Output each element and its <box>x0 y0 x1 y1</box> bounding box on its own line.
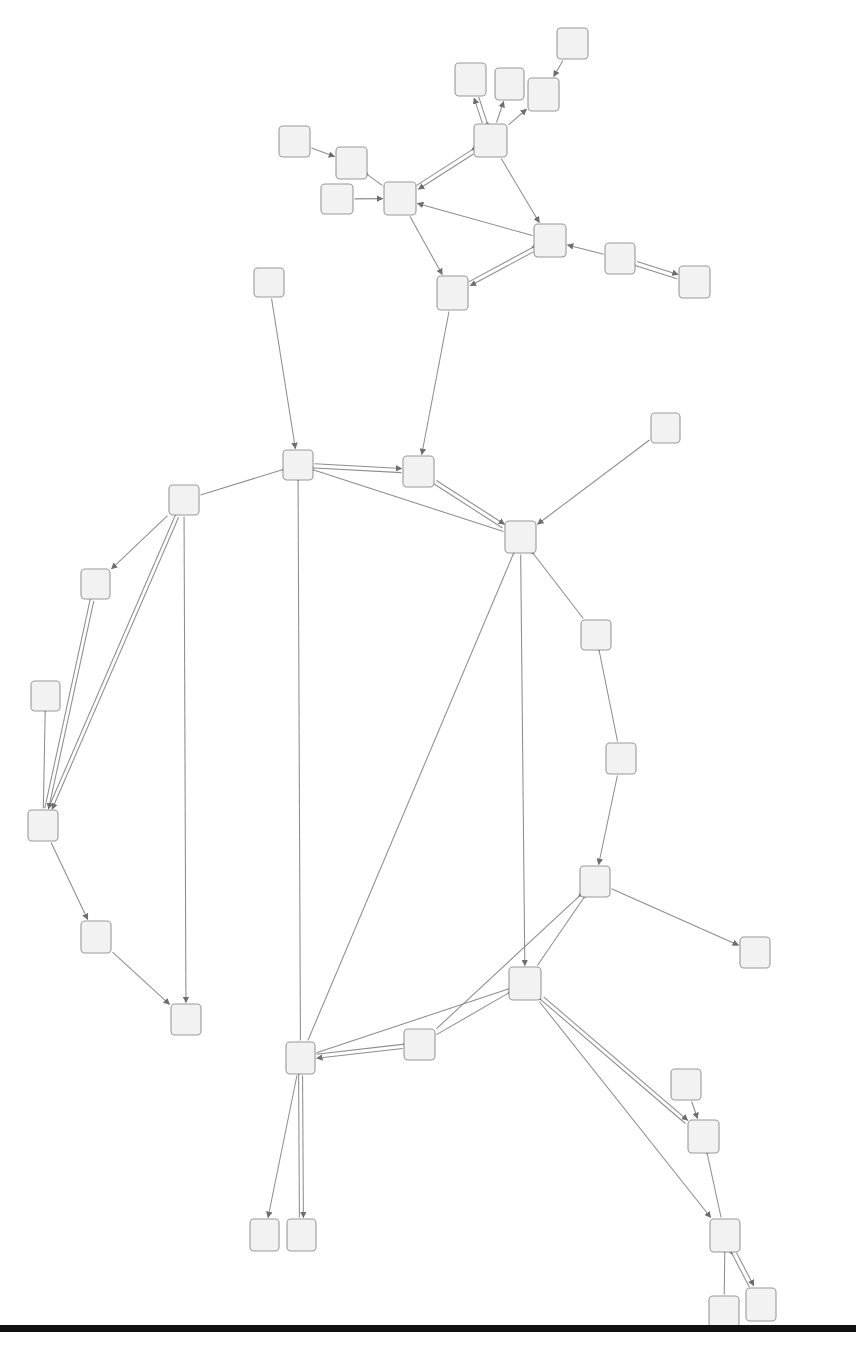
graph-node[interactable] <box>279 126 310 157</box>
graph-node[interactable] <box>534 224 566 257</box>
graph-node[interactable] <box>171 1004 201 1035</box>
graph-node[interactable] <box>250 1219 279 1251</box>
graph-edge <box>184 517 186 1003</box>
graph-node[interactable] <box>287 1219 316 1251</box>
graph-edge <box>316 1044 402 1054</box>
graph-edge <box>418 154 473 189</box>
graph-edge <box>509 109 527 125</box>
graph-edge <box>308 555 513 1041</box>
graph-edge <box>113 952 170 1004</box>
graph-edge <box>537 899 583 966</box>
graph-edge <box>312 148 335 157</box>
graph-node[interactable] <box>336 147 367 179</box>
graph-node[interactable] <box>474 124 507 157</box>
graph-node[interactable] <box>746 1288 776 1321</box>
graph-node[interactable] <box>688 1120 719 1153</box>
graph-node[interactable] <box>321 184 353 214</box>
network-graph-figure <box>0 0 856 1356</box>
graph-edge <box>201 470 282 495</box>
graph-edge <box>724 1254 725 1295</box>
graph-edge <box>544 997 688 1120</box>
graph-edge <box>479 97 487 122</box>
graph-node[interactable] <box>679 266 710 298</box>
graph-edge <box>436 481 504 525</box>
graph-node[interactable] <box>740 937 770 968</box>
graph-edge <box>51 843 88 920</box>
graph-edge <box>692 1102 698 1119</box>
graph-node[interactable] <box>384 182 416 215</box>
graph-node[interactable] <box>169 485 199 515</box>
graph-edge <box>437 994 508 1035</box>
graph-edge <box>501 159 539 223</box>
graph-edge <box>299 1076 300 1218</box>
graph-edge <box>315 464 402 469</box>
graph-edge <box>732 1254 749 1287</box>
graph-node[interactable] <box>528 78 559 111</box>
graph-edge <box>418 203 533 235</box>
graph-edge <box>268 1076 297 1218</box>
graph-edge <box>707 1155 721 1218</box>
graph-node[interactable] <box>283 450 313 480</box>
graph-edge <box>534 555 583 619</box>
graph-edge <box>539 1002 710 1218</box>
graph-edge <box>521 555 525 966</box>
graph-edge <box>554 61 563 77</box>
graph-edge <box>737 1253 754 1286</box>
graph-edge <box>49 516 175 808</box>
graph-node[interactable] <box>437 276 468 310</box>
graph-node[interactable] <box>651 413 680 443</box>
graph-node[interactable] <box>495 68 524 100</box>
graph-edge <box>52 517 178 809</box>
graph-edge <box>612 889 739 945</box>
graph-node[interactable] <box>286 1042 315 1074</box>
graph-node[interactable] <box>81 921 111 953</box>
graph-edge <box>599 652 617 742</box>
graph-edge <box>435 484 503 528</box>
graph-edge <box>410 217 442 275</box>
graph-edge <box>272 299 296 449</box>
graph-node[interactable] <box>81 569 110 599</box>
graph-edge <box>369 175 383 185</box>
graph-node[interactable] <box>254 268 284 297</box>
graph-node[interactable] <box>404 1029 435 1060</box>
graph-edge <box>314 468 401 473</box>
graph-node[interactable] <box>606 743 636 774</box>
graph-node[interactable] <box>671 1069 701 1100</box>
edge-layer <box>43 61 753 1295</box>
graph-edge <box>541 1000 685 1123</box>
graph-node[interactable] <box>455 63 486 96</box>
graph-edge <box>469 248 532 282</box>
graph-edge <box>298 482 300 1041</box>
graph-node[interactable] <box>505 521 536 553</box>
graph-canvas <box>0 0 856 1356</box>
graph-edge <box>497 102 504 123</box>
graph-node[interactable] <box>581 620 611 650</box>
graph-edge <box>43 713 45 809</box>
graph-edge <box>474 98 482 123</box>
graph-edge <box>303 1075 304 1217</box>
graph-node[interactable] <box>28 810 58 841</box>
graph-node[interactable] <box>709 1296 739 1328</box>
graph-node[interactable] <box>710 1219 740 1252</box>
page-baseline-rule <box>0 1325 856 1332</box>
graph-node[interactable] <box>509 967 541 1000</box>
graph-edge <box>568 245 604 254</box>
graph-edge <box>417 150 472 185</box>
graph-edge <box>422 312 449 455</box>
graph-edge <box>538 440 650 524</box>
graph-edge <box>317 1048 403 1058</box>
graph-node[interactable] <box>403 456 434 487</box>
graph-node[interactable] <box>580 866 610 897</box>
graph-node[interactable] <box>605 243 635 274</box>
node-layer <box>28 28 776 1328</box>
graph-node[interactable] <box>31 681 60 711</box>
graph-node[interactable] <box>557 28 588 59</box>
graph-edge <box>112 516 168 569</box>
graph-edge <box>470 252 533 286</box>
graph-edge <box>599 776 618 865</box>
